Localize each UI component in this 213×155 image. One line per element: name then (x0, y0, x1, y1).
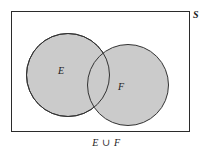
figure-caption: E ∪ F (0, 138, 213, 148)
universe-label: S (193, 10, 199, 20)
venn-diagram-figure: S E F E ∪ F (0, 0, 213, 155)
set-f-circle (88, 45, 169, 126)
set-f-label: F (118, 82, 124, 92)
venn-diagram-canvas (0, 0, 213, 155)
set-e-label: E (58, 66, 64, 76)
